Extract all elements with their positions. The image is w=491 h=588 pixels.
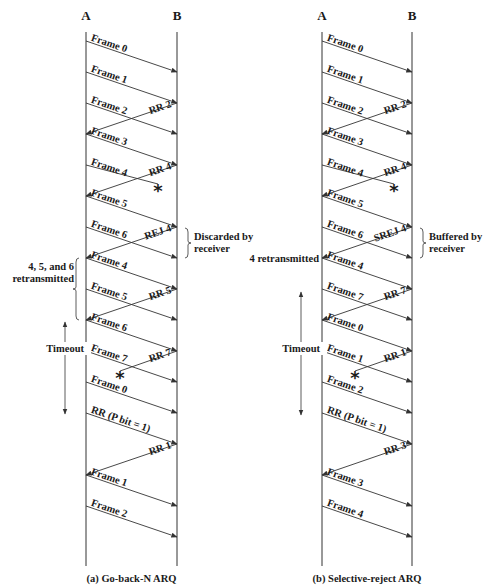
lost-marker-icon: *	[389, 180, 399, 201]
station-b-label: B	[408, 8, 417, 23]
message-label: SREJ 4	[372, 222, 408, 244]
annotation-text: Discarded by	[194, 231, 254, 242]
message-label: RR 2	[382, 98, 407, 116]
brace	[420, 228, 426, 258]
message-label: Frame 4	[90, 156, 130, 179]
panel-selective-reject: ABFrame 0Frame 1Frame 2RR 2Frame 3*Frame…	[250, 8, 483, 585]
station-a-label: A	[317, 8, 327, 23]
timeout-label: Timeout	[282, 343, 320, 354]
message-label: Frame 6	[90, 311, 129, 334]
message-label: Frame 1	[90, 63, 129, 86]
message-label: Frame 2	[90, 94, 129, 117]
message-label: Frame 7	[326, 280, 365, 303]
panel-caption: (a) Go-back-N ARQ	[87, 573, 177, 585]
frame-arrow	[322, 506, 412, 537]
annotation-text: receiver	[194, 243, 230, 254]
message-label: RR 3	[382, 439, 407, 457]
message-label: RR 1	[147, 439, 172, 457]
brace	[185, 228, 191, 258]
annotation-text: Buffered by	[429, 231, 483, 242]
arq-diagram: ABFrame 0Frame 1Frame 2RR 2Frame 3*Frame…	[0, 0, 491, 588]
message-label: Frame 7	[90, 342, 129, 365]
message-label: Frame 5	[90, 280, 129, 303]
message-label: Frame 4	[90, 249, 130, 272]
message-label: Frame 4	[326, 156, 366, 179]
annotation-text: receiver	[429, 243, 465, 254]
message-label: Frame 3	[326, 125, 365, 148]
message-label: Frame 0	[326, 311, 365, 334]
message-label: Frame 5	[90, 187, 129, 210]
panel-go-back-n: ABFrame 0Frame 1Frame 2RR 2Frame 3*Frame…	[12, 8, 254, 585]
lost-marker-icon: *	[153, 180, 163, 201]
message-label: RR 7	[382, 284, 407, 302]
message-label: RR (P bit = 1)	[89, 404, 152, 435]
station-b-label: B	[173, 8, 182, 23]
message-label: Frame 2	[326, 94, 365, 117]
station-a-label: A	[81, 8, 91, 23]
annotation-text: 4 retransmitted	[250, 253, 320, 264]
message-label: Frame 0	[90, 32, 129, 55]
message-label: Frame 6	[90, 218, 129, 241]
annotation-text: 4, 5, and 6	[28, 261, 74, 272]
message-label: RR 7	[147, 346, 172, 364]
message-label: REJ 4	[143, 222, 173, 242]
message-label: Frame 6	[326, 218, 365, 241]
message-label: RR (P bit = 1)	[325, 404, 388, 436]
message-label: RR 4	[147, 160, 173, 178]
message-label: RR 5	[147, 284, 172, 302]
timeout-label: Timeout	[46, 343, 84, 354]
message-label: RR 1	[382, 346, 407, 364]
message-label: Frame 3	[326, 466, 365, 489]
panel-caption: (b) Selective-reject ARQ	[313, 573, 422, 585]
message-label: Frame 4	[326, 497, 366, 520]
message-label: Frame 3	[90, 125, 129, 148]
message-label: Frame 1	[90, 466, 129, 489]
message-label: Frame 1	[326, 342, 365, 365]
frame-arrow	[86, 506, 177, 537]
message-label: Frame 5	[326, 187, 365, 210]
message-label: Frame 0	[326, 32, 365, 55]
message-label: RR 2	[147, 98, 172, 116]
message-label: Frame 1	[326, 63, 365, 86]
message-label: Frame 4	[326, 249, 366, 272]
annotation-text: retransmitted	[12, 273, 74, 284]
message-label: Frame 2	[90, 497, 129, 520]
message-label: RR 4	[382, 160, 408, 178]
